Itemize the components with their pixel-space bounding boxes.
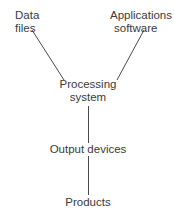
node-data-files-line2: files	[15, 22, 39, 35]
node-applications-line1: Applications	[110, 9, 172, 22]
node-processing-system: Processing system	[48, 78, 128, 104]
node-data-files-line1: Data	[15, 9, 39, 22]
edge-data-files-to-processing	[32, 30, 64, 80]
node-products: Products	[48, 196, 128, 209]
edge-applications-to-processing	[117, 30, 144, 80]
node-data-files: Data files	[15, 9, 39, 35]
node-output-devices: Output devices	[38, 143, 138, 156]
node-applications-line2: software	[110, 22, 172, 35]
node-processing-line1: Processing	[48, 78, 128, 91]
node-processing-line2: system	[48, 91, 128, 104]
node-applications-software: Applications software	[110, 9, 172, 35]
